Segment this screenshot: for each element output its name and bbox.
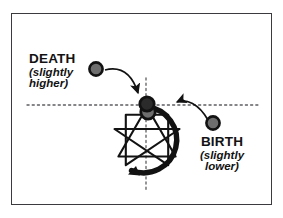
death-label: DEATH (slightly higher) [29, 52, 76, 90]
death-label-heading: DEATH [29, 52, 76, 66]
birth-label: BIRTH (slightly lower) [186, 135, 258, 173]
birth-label-subtitle-line2: lower) [186, 161, 258, 173]
birth-label-heading: BIRTH [186, 135, 258, 149]
diagram-canvas: DEATH (slightly higher) BIRTH (slightly … [0, 0, 283, 218]
image-frame [11, 13, 272, 205]
death-label-subtitle-line2: higher) [29, 78, 76, 90]
